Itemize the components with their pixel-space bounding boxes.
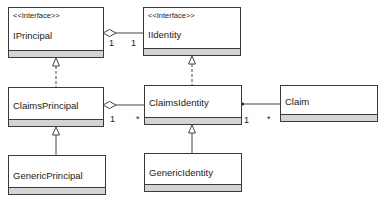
- multiplicity-iidentity: 1: [131, 38, 136, 48]
- compartment-bar: [9, 50, 103, 57]
- generalization-genericprincipal-claimsprincipal: [53, 127, 60, 155]
- stereotype-label: <<Interface>>: [148, 11, 195, 20]
- generalization-genericidentity-claimsidentity: [189, 125, 196, 153]
- class-name: ClaimsIdentity: [149, 97, 209, 108]
- class-iprincipal[interactable]: <<Interface>> IPrincipal: [8, 7, 104, 58]
- class-name: Claim: [285, 96, 309, 107]
- compartment-bar: [145, 117, 241, 124]
- class-claimsprincipal[interactable]: ClaimsPrincipal: [8, 87, 104, 127]
- multiplicity-claimsidentity-left: *: [136, 114, 140, 124]
- uml-diagram: <<Interface>> IPrincipal <<Interface>> I…: [0, 0, 384, 200]
- compartment-bar: [145, 184, 241, 191]
- association-claimsidentity-claim: [241, 102, 280, 105]
- compartment-bar: [9, 119, 103, 126]
- class-name: IIdentity: [148, 29, 181, 40]
- class-claimsidentity[interactable]: ClaimsIdentity: [144, 85, 242, 125]
- multiplicity-claimsprincipal: 1: [110, 114, 115, 124]
- class-claim[interactable]: Claim: [280, 85, 378, 122]
- class-name: GenericIdentity: [149, 167, 213, 178]
- class-name: GenericPrincipal: [13, 170, 83, 181]
- compartment-bar: [281, 114, 377, 121]
- aggregation-claimsprincipal-claimsidentity: [103, 102, 144, 109]
- realization-claimsidentity-iidentity: [189, 56, 196, 85]
- stereotype-label: <<Interface>>: [13, 11, 60, 20]
- class-genericidentity[interactable]: GenericIdentity: [144, 153, 242, 192]
- class-iidentity[interactable]: <<Interface>> IIdentity: [143, 7, 241, 56]
- class-genericprincipal[interactable]: GenericPrincipal: [8, 155, 106, 195]
- class-name: IPrincipal: [13, 30, 52, 41]
- compartment-bar: [9, 187, 105, 194]
- class-name: ClaimsPrincipal: [13, 100, 78, 111]
- multiplicity-claimsidentity-right: 1: [244, 115, 249, 125]
- realization-claimsprincipal-iprincipal: [53, 58, 60, 87]
- multiplicity-claim: *: [267, 114, 271, 124]
- multiplicity-iprincipal: 1: [109, 38, 114, 48]
- compartment-bar: [144, 48, 240, 55]
- aggregation-iprincipal-iidentity: [103, 30, 143, 37]
